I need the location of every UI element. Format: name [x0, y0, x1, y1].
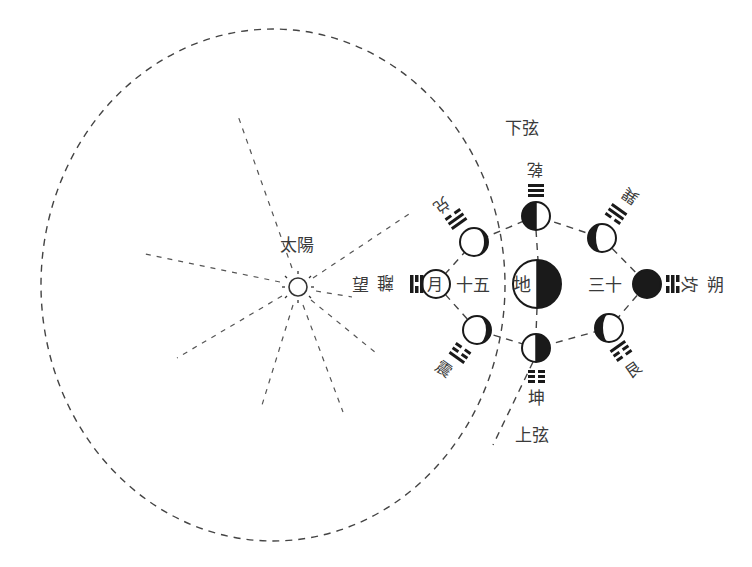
moon-dui	[460, 228, 488, 256]
trigram-gen-icon	[610, 340, 633, 362]
moon-qian	[522, 202, 550, 230]
new-moon-label: 朔	[707, 275, 724, 295]
first-quarter-label: 上弦	[515, 425, 549, 445]
trigram-zhen-label: 震	[432, 357, 456, 382]
day-30-label: 三十	[588, 275, 622, 295]
trigram-xun-label: 巽	[618, 183, 642, 208]
trigram-kan-label: 坎	[679, 276, 699, 293]
moon-kun	[522, 334, 550, 362]
moon-glyph-label: 月	[427, 275, 443, 294]
trigram-qian-label: 乾	[527, 160, 543, 179]
trigram-li-icon	[410, 275, 424, 293]
full-moon-label: 望	[352, 275, 369, 295]
last-quarter-label: 下弦	[505, 118, 539, 138]
sun-icon	[282, 271, 314, 303]
moon-xun	[588, 224, 616, 252]
trigram-kun-icon	[528, 370, 545, 383]
lunar-phase-trigram-diagram: 太陽 地 月 十五 離 望 兑	[0, 0, 752, 567]
trigram-dui-label: 兑	[430, 193, 454, 218]
trigram-xun-icon	[605, 203, 628, 225]
trigram-zhen-icon	[449, 342, 472, 364]
sun-rays	[145, 113, 412, 412]
earth-label: 地	[513, 274, 531, 295]
trigram-gen-label: 艮	[621, 357, 645, 382]
sun-label: 太陽	[280, 235, 314, 255]
moon-gen	[595, 314, 623, 342]
trigram-kun-label: 坤	[528, 388, 545, 408]
moon-zhen	[463, 316, 491, 344]
trigram-li-label: 離	[377, 273, 394, 293]
moon-kan-new	[633, 270, 661, 298]
trigram-kan-icon	[666, 275, 680, 293]
trigram-qian-icon	[528, 184, 544, 197]
day-15-label: 十五	[456, 275, 490, 295]
